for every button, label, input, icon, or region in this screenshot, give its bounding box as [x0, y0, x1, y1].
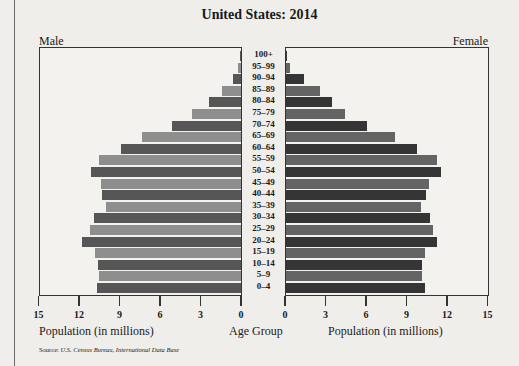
male-bar [172, 121, 241, 131]
male-bar [222, 86, 241, 96]
female-x-axis-title: Population (in millions) [328, 324, 443, 339]
male-x-axis-title: Population (in millions) [39, 324, 154, 339]
age-group-label: 85–89 [242, 84, 285, 96]
female-bar [286, 109, 345, 119]
age-group-label: 15–19 [242, 246, 285, 258]
age-group-label: 75–79 [242, 107, 285, 119]
female-bar [286, 237, 437, 247]
female-tick [365, 296, 367, 306]
male-bar [91, 167, 241, 177]
page-gutter-line [14, 0, 15, 366]
female-bar [286, 190, 426, 200]
male-bar [99, 271, 241, 281]
female-bar [286, 248, 425, 258]
male-plot-area [39, 47, 242, 296]
female-tick [487, 296, 489, 306]
female-tick [446, 296, 448, 306]
female-tick-label: 9 [397, 309, 417, 320]
female-tick-label: 6 [356, 309, 376, 320]
age-group-label: 60–64 [242, 142, 285, 154]
male-bar [101, 179, 241, 189]
male-bar [99, 155, 241, 165]
male-bar [98, 260, 241, 270]
female-bar [286, 271, 422, 281]
age-group-axis-title: Age Group [229, 324, 283, 339]
age-group-label: 45–49 [242, 177, 285, 189]
age-group-label: 65–69 [242, 130, 285, 142]
age-group-label: 95–99 [242, 61, 285, 73]
female-tick-label: 0 [275, 309, 295, 320]
source-note: Source: U.S. Census Bureau, Internationa… [39, 346, 179, 353]
male-bar [233, 74, 241, 84]
female-bar [286, 97, 332, 107]
female-tick-label: 3 [316, 309, 336, 320]
chart-title: United States: 2014 [0, 7, 519, 23]
age-group-label: 30–34 [242, 211, 285, 223]
male-tick-label: 9 [110, 309, 130, 320]
male-tick [200, 296, 202, 306]
male-bar [106, 202, 241, 212]
male-bar [97, 283, 241, 293]
female-bar [286, 74, 304, 84]
female-bar [286, 179, 429, 189]
male-bar [90, 225, 241, 235]
female-bar [286, 167, 441, 177]
male-bar [238, 63, 241, 73]
male-bar [102, 190, 241, 200]
female-bar [286, 132, 395, 142]
female-tick [325, 296, 327, 306]
male-bar [240, 51, 241, 61]
male-tick-label: 15 [29, 309, 49, 320]
male-tick [78, 296, 80, 306]
female-tick [406, 296, 408, 306]
female-tick-label: 12 [437, 309, 457, 320]
age-group-label: 50–54 [242, 165, 285, 177]
male-bar [142, 132, 241, 142]
female-bar [286, 51, 287, 61]
age-group-label: 35–39 [242, 200, 285, 212]
female-tick [284, 296, 286, 306]
age-group-label: 0–4 [242, 281, 285, 293]
male-tick [159, 296, 161, 306]
male-tick-label: 0 [231, 309, 251, 320]
male-bar [209, 97, 241, 107]
age-group-label: 80–84 [242, 95, 285, 107]
age-group-label: 90–94 [242, 72, 285, 84]
female-bar [286, 202, 421, 212]
age-group-label: 40–44 [242, 188, 285, 200]
age-group-label: 5–9 [242, 269, 285, 281]
female-bar [286, 86, 320, 96]
female-bar [286, 155, 437, 165]
age-group-label: 10–14 [242, 258, 285, 270]
age-group-label: 55–59 [242, 153, 285, 165]
male-bar [192, 109, 241, 119]
age-group-label: 25–29 [242, 223, 285, 235]
female-bar [286, 260, 422, 270]
male-bar [121, 144, 241, 154]
female-bar [286, 213, 430, 223]
male-tick-label: 6 [150, 309, 170, 320]
male-bar [82, 237, 241, 247]
age-group-label: 100+ [242, 49, 285, 61]
male-tick-label: 3 [191, 309, 211, 320]
age-group-label: 20–24 [242, 235, 285, 247]
male-tick [38, 296, 40, 306]
male-bar [94, 213, 241, 223]
male-bar [95, 248, 241, 258]
female-bar [286, 283, 425, 293]
age-group-label: 70–74 [242, 119, 285, 131]
female-tick-label: 15 [478, 309, 498, 320]
female-bar [286, 225, 433, 235]
male-tick-label: 12 [69, 309, 89, 320]
female-bar [286, 121, 367, 131]
male-tick [119, 296, 121, 306]
female-bar [286, 63, 290, 73]
male-tick [240, 296, 242, 306]
female-bar [286, 144, 417, 154]
female-plot-area [285, 47, 489, 296]
